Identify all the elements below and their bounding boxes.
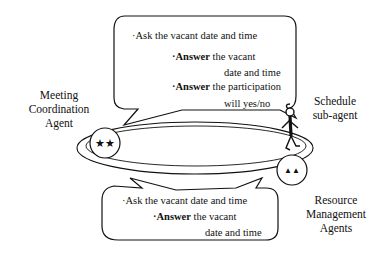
resource-management-agents-label: Resource Management Agents	[296, 193, 376, 235]
top-bubble-line-3: date and time	[224, 66, 281, 79]
bottom-bubble-line-1: ·Ask the vacant date and time	[122, 194, 247, 207]
meeting-agent-symbol: ★★	[92, 136, 118, 150]
top-bubble-line-4: ·Answer the participation	[172, 80, 281, 93]
schedule-sub-agent-label: Schedule sub-agent	[300, 94, 370, 122]
resource-agents-symbol: ▲▲	[279, 164, 305, 178]
bottom-bubble-line-3: date and time	[205, 226, 262, 239]
top-bubble-line-1: ·Ask the vacant date and time	[132, 29, 257, 42]
bottom-bubble-line-2: ·Answer the vacant	[153, 210, 236, 223]
top-bubble-line-2: ·Answer the vacant	[172, 50, 255, 63]
top-bubble-line-5: will yes/no	[224, 97, 270, 110]
meeting-coordination-agent-label: Meeting Coordination Agent	[14, 88, 104, 130]
